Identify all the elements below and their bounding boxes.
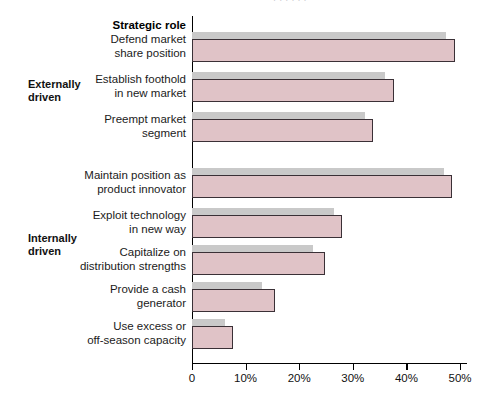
- category-label: Exploit technology in new way: [26, 209, 186, 236]
- category-label: Establish foothold in new market: [26, 73, 186, 100]
- bar-pink: [192, 119, 373, 142]
- x-tick: [246, 364, 247, 370]
- bar-gray: [192, 319, 225, 326]
- horizontal-bar-chart: · · · · · · Strategic role Externally dr…: [0, 0, 490, 404]
- x-tick-label: 20%: [279, 372, 319, 384]
- bar-gray: [192, 168, 444, 175]
- x-tick: [299, 364, 300, 370]
- bar-gray: [192, 72, 385, 79]
- bar-pink: [192, 215, 342, 238]
- x-tick-label: 0: [172, 372, 212, 384]
- category-label: Capitalize on distribution strengths: [26, 246, 186, 273]
- bar-gray: [192, 245, 313, 252]
- x-tick: [353, 364, 354, 370]
- x-tick-label: 10%: [226, 372, 266, 384]
- bar-pink: [192, 39, 455, 62]
- x-tick: [192, 364, 193, 370]
- plot-area: [192, 16, 468, 361]
- x-tick-label: 40%: [386, 372, 426, 384]
- bar-pink: [192, 79, 394, 102]
- bar-pink: [192, 175, 452, 198]
- x-tick-label: 50%: [440, 372, 480, 384]
- bar-gray: [192, 32, 446, 39]
- bar-gray: [192, 282, 262, 289]
- bar-pink: [192, 326, 233, 349]
- x-axis-line: [192, 363, 467, 364]
- category-label: Maintain position as product innovator: [26, 169, 186, 196]
- x-tick: [406, 364, 407, 370]
- category-label: Use excess or off-season capacity: [26, 320, 186, 347]
- bar-pink: [192, 252, 325, 275]
- category-label: Provide a cash generator: [26, 283, 186, 310]
- category-label: Preempt market segment: [26, 113, 186, 140]
- category-label: Defend market share position: [26, 33, 186, 60]
- axis-header-strategic-role: Strategic role: [26, 19, 186, 32]
- bar-gray: [192, 208, 334, 215]
- bar-pink: [192, 289, 275, 312]
- x-tick: [460, 364, 461, 370]
- x-tick-label: 30%: [333, 372, 373, 384]
- cutoff-caption: · · · · · ·: [140, 0, 440, 3]
- bar-gray: [192, 112, 365, 119]
